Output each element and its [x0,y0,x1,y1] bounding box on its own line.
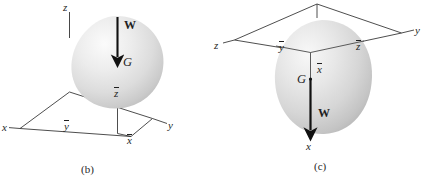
z-axis-label: z [63,2,67,13]
center-of-gravity-point [309,77,312,80]
y-bar-label: y [279,41,284,53]
panel-b-caption: (b) [81,163,94,175]
z-axis-line [223,40,235,43]
x-bar-label: x [127,134,132,146]
x-bar-label: x [317,63,322,75]
weight-label: W [318,107,330,119]
weight-label: W [124,19,136,31]
y-bar-label: y [64,120,69,132]
center-of-gravity-point [116,60,119,63]
x-axis-line [9,128,20,129]
y-axis-label: y [168,120,173,131]
y-axis-label: y [415,25,420,36]
panel-b: z W G z x y x y (b) [0,0,212,191]
center-of-gravity-label: G [297,73,306,86]
panel-b-drawing [0,0,212,191]
figure-container: z W G z x y x y (b) [0,0,425,191]
panel-c-caption: (c) [314,160,326,172]
x-axis-label: x [306,141,311,152]
z-bar-label: z [356,40,360,52]
y-axis-line [402,30,415,33]
panel-c: z y z y x G W x (c) [212,0,425,191]
x-axis-label: x [2,122,7,133]
z-axis-label: z [214,40,218,51]
center-of-gravity-label: G [123,56,132,69]
y-axis-line [153,119,168,124]
z-bar-label: z [114,87,118,99]
